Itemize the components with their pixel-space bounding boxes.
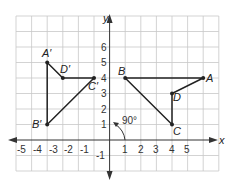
label-c-prime: C′ (88, 80, 99, 92)
label-c: C (173, 125, 181, 137)
point-d-prime (61, 76, 65, 80)
rotation-angle-label: 90° (122, 115, 137, 126)
x-tick: 1 (122, 144, 128, 155)
y-tick: 3 (101, 88, 107, 99)
x-tick: 4 (169, 144, 175, 155)
label-d-prime: D′ (60, 63, 71, 75)
x-tick: -4 (33, 144, 42, 155)
y-tick: 2 (101, 104, 107, 115)
x-axis-left-arrow-icon (8, 137, 17, 143)
original-figure: A B C D (118, 65, 213, 137)
label-a-prime: A′ (41, 47, 52, 59)
y-tick-labels: -1 1 2 3 4 5 6 (96, 42, 107, 161)
point-a-prime (45, 61, 49, 65)
y-tick: 5 (101, 57, 107, 68)
label-b-prime: B′ (32, 118, 42, 130)
y-tick: 1 (101, 119, 107, 130)
y-tick: -1 (96, 150, 105, 161)
label-d: D (173, 91, 181, 103)
label-a: A (205, 72, 213, 84)
y-tick: 4 (101, 73, 107, 84)
y-axis-down-arrow-icon (107, 171, 113, 180)
x-tick: 3 (153, 144, 159, 155)
rotation-arc-icon (115, 124, 125, 140)
x-tick: 2 (138, 144, 144, 155)
y-tick: 6 (101, 42, 107, 53)
x-tick: -3 (49, 144, 58, 155)
x-tick: -2 (64, 144, 73, 155)
point-b-prime (45, 123, 49, 127)
point-a (201, 76, 205, 80)
image-figure: A′ B′ C′ D′ (32, 47, 99, 130)
label-b: B (118, 65, 125, 77)
coordinate-plane: x y -5 -4 -3 -2 -1 1 2 3 4 5 -1 1 2 3 4 … (0, 0, 228, 182)
x-axis-label: x (218, 134, 225, 146)
x-tick: -1 (80, 144, 89, 155)
x-tick: -5 (17, 144, 26, 155)
x-axis-right-arrow-icon (209, 137, 218, 143)
x-tick: 5 (184, 144, 190, 155)
